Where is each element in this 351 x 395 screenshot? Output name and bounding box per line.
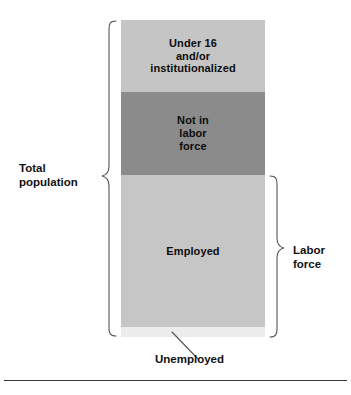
segment-under-16-label: Under 16 and/or institutionalized (150, 37, 235, 76)
segment-employed-label: Employed (166, 245, 219, 258)
label-unemployed: Unemployed (155, 352, 285, 366)
bottom-divider-rule (4, 380, 347, 381)
population-stacked-bar: Under 16 and/or institutionalized Not in… (121, 20, 265, 337)
segment-unemployed (121, 327, 265, 337)
segment-not-in-labor-force: Not in labor force (121, 92, 265, 175)
label-total-population: Total population (19, 161, 101, 190)
segment-not-in-labor-force-label: Not in labor force (177, 114, 209, 153)
label-labor-force: Labor force (293, 243, 349, 272)
segment-under-16-or-institutionalized: Under 16 and/or institutionalized (121, 20, 265, 92)
diagram-canvas: Under 16 and/or institutionalized Not in… (0, 0, 351, 395)
segment-employed: Employed (121, 175, 265, 327)
left-brace-total-population (102, 21, 116, 336)
right-brace-labor-force (270, 176, 284, 337)
